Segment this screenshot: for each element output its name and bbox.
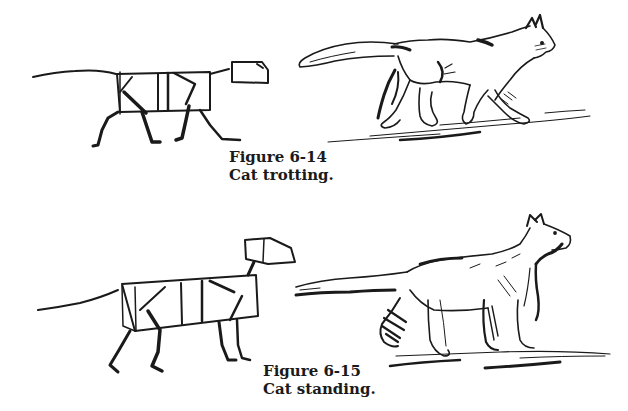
figure-6-14-caption: Figure 6-14 Cat trotting.: [229, 148, 334, 184]
fig15-cat-drawing: [296, 214, 610, 368]
figure-title: Cat standing.: [263, 380, 376, 398]
fig14-construction-sketch: [33, 62, 268, 146]
book-page: Figure 6-14 Cat trotting. Figure 6-15 Ca…: [0, 0, 628, 411]
figure-title: Cat trotting.: [229, 166, 334, 184]
illustrations: [0, 0, 628, 411]
figure-number: Figure 6-15: [263, 362, 376, 380]
figure-number: Figure 6-14: [229, 148, 334, 166]
fig14-cat-drawing: [299, 15, 590, 142]
fig15-construction-sketch: [38, 238, 295, 372]
figure-6-15-caption: Figure 6-15 Cat standing.: [263, 362, 376, 398]
